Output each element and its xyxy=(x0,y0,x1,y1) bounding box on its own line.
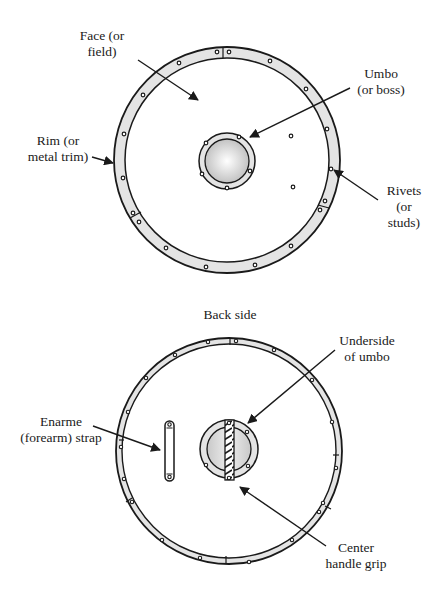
grip-label-line2: handle grip xyxy=(322,556,390,572)
grip-label: Center handle grip xyxy=(322,540,390,572)
rim-arrow xyxy=(92,157,113,163)
face-label: Face (or field) xyxy=(72,28,132,60)
underside-label: Underside of umbo xyxy=(332,333,402,365)
rim-label-line2: metal trim) xyxy=(26,149,90,165)
back-side-title: Back side xyxy=(195,307,265,323)
rim-label-line1: Rim (or xyxy=(26,133,90,149)
strap-label-line1: Enarme xyxy=(18,414,104,430)
center-handle-grip xyxy=(225,420,234,480)
face-label-line1: Face (or xyxy=(72,28,132,44)
rim-label: Rim (or metal trim) xyxy=(26,133,90,165)
front-umbo-boss xyxy=(205,139,249,183)
umbo-label-line2: (or boss) xyxy=(350,82,412,98)
face-label-line2: field) xyxy=(72,44,132,60)
front-shield xyxy=(92,47,378,273)
rivets-label-line1: Rivets xyxy=(382,183,426,199)
rivets-label-line3: studs) xyxy=(382,215,426,231)
umbo-label: Umbo (or boss) xyxy=(350,66,412,98)
underside-label-line2: of umbo xyxy=(332,349,402,365)
rivets-label: Rivets (or studs) xyxy=(382,183,426,231)
umbo-label-line1: Umbo xyxy=(350,66,412,82)
enarme-strap xyxy=(165,421,174,481)
rivets-arrow xyxy=(334,170,378,200)
back-shield xyxy=(93,338,342,564)
strap-label-line2: (forearm) strap xyxy=(18,430,104,446)
rivets-label-line2: (or xyxy=(382,199,426,215)
grip-label-line1: Center xyxy=(322,540,390,556)
strap-label: Enarme (forearm) strap xyxy=(18,414,104,446)
underside-label-line1: Underside xyxy=(332,333,402,349)
